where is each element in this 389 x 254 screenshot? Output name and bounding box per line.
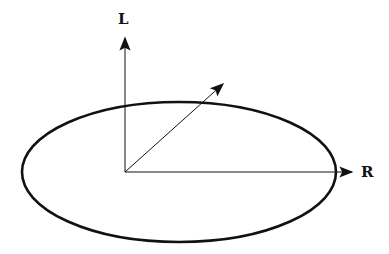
diagonal-vector-arrow [125, 84, 223, 172]
horizontal-axis-label: R [361, 163, 374, 181]
vertical-axis-label: L [118, 10, 129, 28]
diagram-canvas: L R [0, 0, 389, 254]
